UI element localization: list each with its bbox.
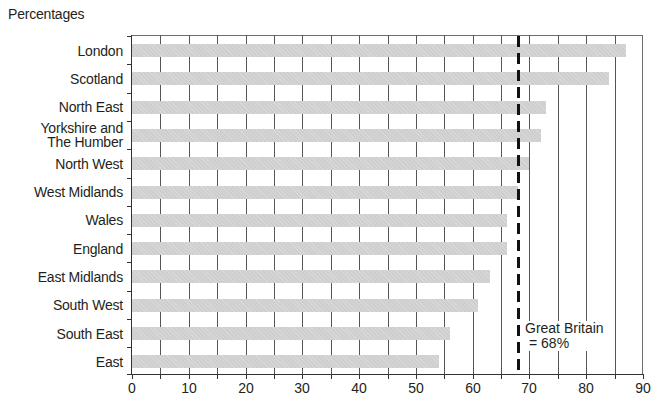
bar-scotland: [132, 72, 609, 85]
category-label: South West: [53, 298, 123, 312]
category-label: West Midlands: [34, 185, 123, 199]
bar-london: [132, 44, 626, 57]
gridline: [359, 35, 360, 374]
gridline: [444, 35, 445, 374]
category-label: North East: [59, 100, 123, 114]
category-label: East: [96, 355, 123, 369]
bar-west-midlands: [132, 186, 518, 199]
reference-label-line2: = 68%: [525, 336, 604, 351]
x-tick: [529, 374, 530, 379]
gridline: [302, 35, 303, 374]
reference-line-label: Great Britain = 68%: [524, 321, 606, 351]
gridline: [246, 35, 247, 374]
x-tick: [359, 374, 360, 379]
bar-wales: [132, 214, 507, 227]
bar-east: [132, 355, 439, 368]
category-label-line: South East: [57, 327, 124, 341]
x-tick: [189, 374, 190, 379]
category-label-line: Yorkshire and: [41, 121, 124, 135]
x-tick-label: 30: [287, 380, 317, 396]
category-label-line: The Humber: [41, 135, 124, 149]
reference-label-line1: Great Britain: [525, 321, 604, 336]
bar-england: [132, 242, 507, 255]
x-tick-label: 50: [401, 380, 431, 396]
bar-south-east: [132, 327, 450, 340]
bar-north-west: [132, 157, 529, 170]
category-label: Wales: [86, 213, 123, 227]
x-tick-label: 70: [514, 380, 544, 396]
category-label-line: England: [73, 242, 123, 256]
x-tick-label: 60: [458, 380, 488, 396]
x-tick-label: 40: [344, 380, 374, 396]
gridline: [416, 35, 417, 374]
x-tick: [473, 374, 474, 379]
category-label: London: [77, 44, 123, 58]
x-tick: [132, 374, 133, 379]
gridline: [473, 35, 474, 374]
gridline: [217, 35, 218, 374]
gridline: [388, 35, 389, 374]
x-tick: [246, 374, 247, 379]
category-label: South East: [57, 327, 124, 341]
x-tick: [586, 374, 587, 379]
category-label-line: North East: [59, 100, 123, 114]
category-label-line: East Midlands: [38, 270, 123, 284]
reference-line-great-britain: [517, 36, 520, 374]
bar-east-midlands: [132, 270, 490, 283]
gridline: [189, 35, 190, 374]
x-tick-label: 0: [117, 380, 147, 396]
y-axis: [131, 35, 132, 375]
category-label: England: [73, 242, 123, 256]
x-tick-label: 10: [174, 380, 204, 396]
x-tick-label: 20: [231, 380, 261, 396]
category-label: North West: [55, 157, 123, 171]
category-label: Scotland: [70, 72, 123, 86]
category-label-line: London: [77, 44, 123, 58]
bar-yorkshire-and-the-humber: [132, 129, 541, 142]
gridline: [331, 35, 332, 374]
bar-south-west: [132, 299, 478, 312]
category-label-line: East: [96, 355, 123, 369]
x-tick-label: 90: [628, 380, 652, 396]
x-tick: [302, 374, 303, 379]
category-label: East Midlands: [38, 270, 123, 284]
category-label-line: North West: [55, 157, 123, 171]
gridline: [615, 35, 616, 374]
category-label-line: Scotland: [70, 72, 123, 86]
category-label: Yorkshire andThe Humber: [41, 121, 124, 149]
unit-label: Percentages: [8, 6, 84, 22]
x-tick: [416, 374, 417, 379]
category-label-line: Wales: [86, 213, 123, 227]
x-tick: [643, 374, 644, 379]
gridline: [501, 35, 502, 374]
gridline: [274, 35, 275, 374]
bar-north-east: [132, 101, 546, 114]
category-label-line: West Midlands: [34, 185, 123, 199]
gridline: [160, 35, 161, 374]
x-axis: [131, 374, 644, 375]
category-label-line: South West: [53, 298, 123, 312]
x-tick-label: 80: [571, 380, 601, 396]
